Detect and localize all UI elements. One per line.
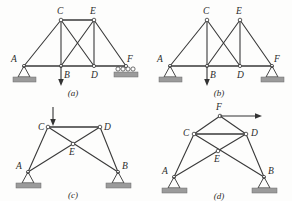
node-label-B: B [122,161,128,171]
member-EF [240,20,272,66]
roller-wheel-4 [131,67,135,71]
joint-D [92,64,95,67]
panel-d-drawing: A B C D E F (d) [146,100,292,201]
panel-c-drawing: A B C D E (c) [0,100,146,201]
node-label-F: F [126,54,133,64]
panel-a-caption: (a) [68,88,79,98]
member-AD [174,134,246,177]
member-DB [100,127,118,172]
ground-block-B [106,183,131,188]
node-label-E: E [68,147,75,157]
panel-b-drawing: A B C D E F (b) [146,0,292,100]
joint-C [59,18,63,22]
node-label-C: C [57,6,64,16]
joint-D [238,64,241,67]
panel-b-caption: (b) [214,88,225,98]
panel-d-caption: (d) [214,191,225,201]
node-label-E: E [89,6,96,16]
node-label-C: C [38,122,45,132]
joint-E [92,18,96,22]
node-label-D: D [103,122,111,132]
member-DB [246,134,264,177]
node-label-F: F [215,102,222,112]
ground-block-B [252,188,277,193]
member-EF [94,20,126,66]
node-label-B: B [268,166,274,176]
node-label-D: D [90,70,98,80]
node-label-A: A [156,54,163,64]
member-AC [170,20,207,66]
member-CB [48,127,118,172]
joint-D [98,125,102,129]
member-FD [220,116,246,134]
node-label-D: D [236,70,244,80]
ground-block-A [13,77,36,82]
ground-block-A [162,188,187,193]
node-label-A: A [10,54,17,64]
joint-E [238,18,242,22]
node-label-C: C [203,6,210,16]
panel-b: A B C D E F (b) [146,0,292,100]
ground-block-F [261,77,284,82]
member-FC [194,116,220,134]
ground-block-F [114,72,138,77]
joint-C [46,125,50,129]
load-arrow-C-head [50,119,56,126]
panel-c-caption: (c) [68,190,78,200]
node-label-E: E [213,154,220,164]
member-CB [194,134,264,177]
node-label-A: A [161,166,168,176]
node-label-B: B [210,70,216,80]
node-label-C: C [183,128,190,138]
joint-E [216,149,220,153]
roller-wheel-1 [116,67,120,71]
panel-d: A B C D E F (d) [146,100,292,201]
ground-block-A [159,77,182,82]
node-label-B: B [64,70,70,80]
load-arrow-B-head [58,79,64,86]
joint-C [205,18,209,22]
node-label-D: D [250,128,258,138]
node-label-F: F [273,54,280,64]
joint-E [71,142,75,146]
load-arrow-B-head [204,79,210,86]
ground-block-A [16,183,41,188]
member-AD [28,127,100,172]
roller-wheel-3 [126,67,130,71]
panel-a-drawing: A B C D E F (a) [0,0,146,100]
panel-a: A B C D E F (a) [0,0,146,100]
load-arrow-F-head [255,113,262,119]
panel-c: A B C D E (c) [0,100,146,201]
member-AC [24,20,61,66]
roller-wheel-2 [121,67,125,71]
truss-figure: A B C D E F (a) [0,0,292,201]
node-label-A: A [15,161,22,171]
joint-C [192,132,196,136]
node-label-E: E [235,6,242,16]
joint-D [244,132,248,136]
